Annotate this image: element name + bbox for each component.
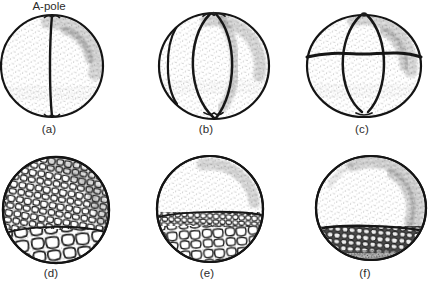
embryo-cleavage-figure: A-pole (a) (b): [0, 0, 434, 288]
caption-b: (b): [199, 123, 214, 135]
caption-d: (d): [44, 267, 59, 279]
caption-e: (e): [200, 267, 215, 279]
figure-canvas: A-pole (a) (b): [0, 0, 434, 288]
embryo-blastula-stage: [157, 156, 263, 263]
caption-a: (a): [42, 123, 57, 135]
embryo-two-cell-stage: [1, 15, 104, 117]
caption-f: (f): [359, 267, 370, 279]
embryo-late-blastula-stage: [316, 156, 427, 262]
polar-nub: [361, 12, 367, 16]
embryo-four-cell-stage: [159, 12, 269, 119]
caption-c: (c): [355, 123, 369, 135]
embryo-morula-stage: [3, 157, 109, 265]
embryo-eight-cell-stage: [307, 12, 421, 117]
a-pole-label: A-pole: [32, 0, 65, 12]
